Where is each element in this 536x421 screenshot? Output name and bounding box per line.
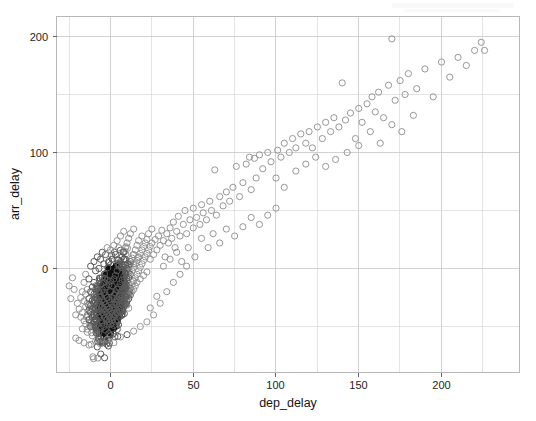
y-tick-label-100: 100 <box>30 147 48 159</box>
x-tick-label-100: 100 <box>266 379 284 391</box>
x-axis-title: dep_delay <box>259 396 317 410</box>
x-tick-label-200: 200 <box>432 379 450 391</box>
y-tick-label-200: 200 <box>30 31 48 43</box>
x-tick-label-150: 150 <box>349 379 367 391</box>
plot-panel <box>57 17 520 373</box>
x-tick-label-0: 0 <box>107 379 113 391</box>
panel-background <box>57 17 520 373</box>
y-axis-title: arr_delay <box>8 167 22 220</box>
plot-canvas: 200 100 0 arr_delay 0 50 100 150 200 dep… <box>0 0 536 421</box>
scatter-plot-figure: 200 100 0 arr_delay 0 50 100 150 200 dep… <box>0 0 536 421</box>
y-tick-label-0: 0 <box>42 263 48 275</box>
x-tick-label-50: 50 <box>187 379 199 391</box>
scan-artifact <box>392 3 514 12</box>
